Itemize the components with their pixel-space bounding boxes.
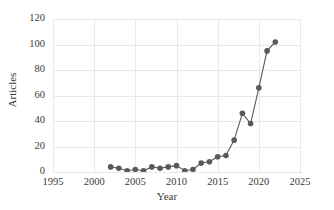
x-tick-label: 2025 xyxy=(280,176,320,187)
plot-area xyxy=(53,19,300,172)
data-point xyxy=(174,163,180,169)
y-tick-label: 120 xyxy=(11,12,45,23)
series-line xyxy=(111,42,276,171)
data-point xyxy=(248,121,254,127)
y-tick-label: 0 xyxy=(11,165,45,176)
data-point xyxy=(198,160,204,166)
data-point xyxy=(108,164,114,170)
data-point xyxy=(116,165,122,171)
x-tick-label: 2005 xyxy=(115,176,155,187)
data-point xyxy=(264,48,270,54)
y-tick-label: 100 xyxy=(11,38,45,49)
data-series xyxy=(53,19,300,172)
gridline-horizontal xyxy=(53,172,300,173)
gridline-vertical xyxy=(300,19,301,172)
data-point xyxy=(256,85,262,91)
data-point xyxy=(207,159,213,165)
data-point xyxy=(133,167,139,172)
x-tick-label: 2020 xyxy=(239,176,279,187)
data-point xyxy=(182,168,188,172)
data-point xyxy=(149,164,155,170)
x-tick-label: 2015 xyxy=(198,176,238,187)
y-axis-title: Articles xyxy=(6,60,18,120)
x-axis-title: Year xyxy=(0,190,334,202)
data-point xyxy=(165,164,171,170)
data-point xyxy=(273,39,279,45)
x-tick-label: 1995 xyxy=(33,176,73,187)
line-chart: 020406080100120 199520002005201020152020… xyxy=(0,0,334,210)
x-tick-label: 2000 xyxy=(74,176,114,187)
data-point xyxy=(124,168,130,172)
data-point xyxy=(215,154,221,160)
data-point xyxy=(240,111,246,117)
data-point xyxy=(157,165,163,171)
data-point xyxy=(231,137,237,143)
data-point xyxy=(141,168,147,172)
x-tick-label: 2010 xyxy=(157,176,197,187)
y-tick-label: 20 xyxy=(11,140,45,151)
data-point xyxy=(190,167,196,172)
data-point xyxy=(223,153,229,159)
